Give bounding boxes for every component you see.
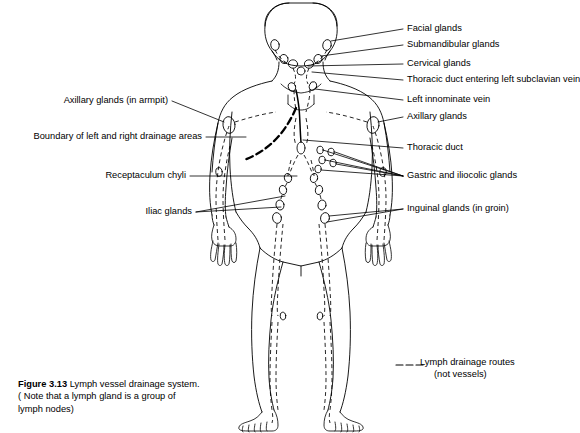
leader-gastric-5 — [336, 164, 403, 176]
label-left-innominate-vein: Left innominate vein — [407, 94, 490, 105]
figure-caption: Figure 3.13 Lymph vessel drainage system… — [18, 378, 248, 415]
figure-note-line1: ( Note that a lymph gland is a group of — [18, 391, 176, 401]
leader-gastric-3 — [321, 170, 403, 176]
label-submandibular-glands: Submandibular glands — [407, 39, 500, 50]
label-axillary-glands-armpit: Axillary glands (in armpit) — [0, 95, 168, 106]
label-cervical-glands: Cervical glands — [407, 58, 471, 69]
head-outline — [265, 3, 337, 66]
left-hand-outline — [211, 225, 237, 266]
leader-axillary-glands-right — [378, 117, 403, 122]
label-drainage-boundary: Boundary of left and right drainage area… — [0, 131, 202, 142]
label-iliac-glands: Iliac glands — [0, 206, 192, 217]
leader-axillary-glands-armpit — [172, 101, 224, 122]
label-facial-glands: Facial glands — [407, 23, 462, 34]
leader-thoracic-duct-subclavian — [312, 72, 403, 80]
figure-number: Figure 3.13 — [18, 379, 67, 389]
drainage-boundary-curve — [244, 108, 296, 160]
label-axillary-glands-right: Axillary glands — [407, 111, 467, 122]
thoracic-duct-vessel — [296, 90, 301, 142]
leader-facial-glands — [331, 29, 403, 41]
legend-label-line2: (not vessels) — [420, 368, 515, 380]
label-thoracic-duct-subclavian: Thoracic duct entering left subclavian v… — [407, 74, 580, 85]
label-inguinal-glands: Inguinal glands (in groin) — [407, 203, 509, 214]
figure-note-line2: lymph nodes) — [18, 404, 74, 414]
clavicle-lines — [281, 84, 321, 110]
right-hand-outline — [365, 225, 391, 266]
lymph-nodes — [215, 39, 386, 320]
legend-label-line1: Lymph drainage routes — [420, 356, 515, 368]
figure-title: Lymph vessel drainage system. — [70, 379, 200, 389]
label-receptaculum-chyli: Receptaculum chyli — [0, 170, 186, 181]
leader-cervical-glands — [308, 64, 403, 66]
label-thoracic-duct: Thoracic duct — [407, 142, 463, 153]
neck-outline — [272, 62, 330, 81]
lymph-drainage-routes — [216, 50, 386, 423]
legend: Lymph drainage routes (not vessels) — [420, 356, 515, 380]
label-gastric-iliocolic-glands: Gastric and iliocolic glands — [407, 170, 517, 181]
